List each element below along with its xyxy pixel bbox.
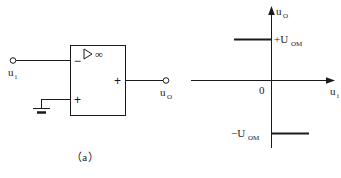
output-sign: +	[114, 74, 121, 88]
negative-saturation-label-subscript: OM	[248, 134, 260, 142]
triangle-icon	[84, 49, 92, 59]
figure-b-plot: u O u i 0 +U OM −U OM （b）	[175, 0, 341, 178]
output-terminal-node	[163, 78, 169, 84]
infinity-gain-icon: ∞	[95, 48, 103, 60]
noninverting-input-sign: +	[74, 93, 81, 107]
x-axis-label: u	[330, 85, 336, 97]
negative-saturation-label: −U	[231, 127, 245, 139]
output-signal-label-subscript: O	[167, 93, 172, 101]
ground-icon	[33, 100, 50, 113]
origin-label: 0	[259, 84, 265, 96]
figure-page: ∞ − u i + + u O （a）	[0, 0, 341, 178]
y-axis-arrow-icon	[268, 6, 275, 15]
input-signal-label: u	[8, 66, 14, 78]
positive-saturation-label: +U	[274, 33, 288, 45]
transfer-characteristic-svg: u O u i 0 +U OM −U OM	[175, 0, 341, 150]
figure-a-circuit: ∞ − u i + + u O （a）	[0, 0, 180, 178]
y-axis-label-subscript: O	[283, 12, 288, 20]
positive-saturation-label-subscript: OM	[291, 40, 303, 48]
x-axis-label-subscript: i	[337, 92, 339, 100]
input-signal-label-subscript: i	[15, 73, 17, 81]
x-axis-arrow-icon	[326, 77, 335, 84]
output-signal-label: u	[160, 86, 166, 98]
figure-a-caption: （a）	[50, 148, 120, 164]
inverting-input-sign: −	[74, 54, 81, 68]
circuit-schematic: ∞ − u i + + u O	[0, 0, 180, 145]
y-axis-label: u	[276, 5, 282, 17]
input-terminal-node	[10, 58, 16, 64]
